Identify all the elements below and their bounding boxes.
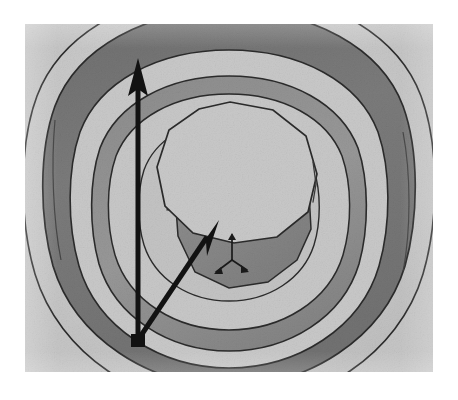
figure-frame	[25, 24, 433, 372]
arrow-origin-marker	[131, 334, 145, 347]
cad-render-figure	[25, 24, 433, 372]
screenshot-root: No legible text, axis labels, legend, or…	[0, 0, 458, 400]
